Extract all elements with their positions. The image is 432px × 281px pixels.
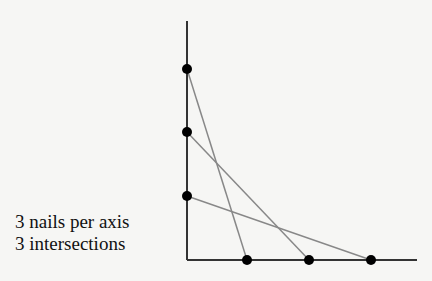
string-line-3 (187, 196, 371, 260)
x-axis-nail (242, 255, 252, 265)
x-axis-nail (366, 255, 376, 265)
caption-intersections: 3 intersections (15, 233, 125, 255)
strings (187, 69, 371, 260)
y-axis-nail (182, 127, 192, 137)
string-line-2 (187, 132, 309, 260)
nails (182, 64, 376, 265)
y-axis-nail (182, 191, 192, 201)
caption-nails-per-axis: 3 nails per axis (15, 211, 130, 233)
y-axis-nail (182, 64, 192, 74)
x-axis-nail (304, 255, 314, 265)
